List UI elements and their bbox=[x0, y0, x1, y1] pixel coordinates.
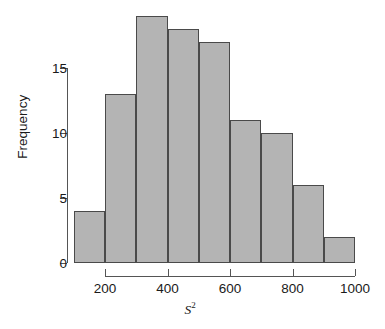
x-axis-tick bbox=[168, 269, 169, 276]
x-axis-tick-label: 600 bbox=[200, 282, 260, 296]
x-axis-tick bbox=[105, 269, 106, 276]
histogram-chart: 0 5 10 15 Frequency 200 400 600 800 1000… bbox=[0, 0, 385, 329]
y-axis-tick-label: 10 bbox=[27, 127, 67, 141]
x-axis-tick-label: 200 bbox=[75, 282, 135, 296]
x-axis-tick-label: 1000 bbox=[325, 282, 385, 296]
y-axis-title: Frequency bbox=[16, 62, 30, 192]
plot-area: 0 5 10 15 Frequency 200 400 600 800 1000… bbox=[0, 0, 385, 329]
histogram-bar bbox=[230, 120, 261, 263]
histogram-bar bbox=[261, 133, 292, 263]
x-axis-tick bbox=[293, 269, 294, 276]
x-axis-tick-label: 400 bbox=[138, 282, 198, 296]
histogram-bar bbox=[324, 237, 355, 263]
histogram-bar bbox=[199, 42, 230, 263]
y-axis-line bbox=[67, 68, 68, 263]
x-axis-tick-label: 800 bbox=[263, 282, 323, 296]
x-axis-tick bbox=[355, 269, 356, 276]
histogram-bar bbox=[136, 16, 167, 263]
y-axis-tick-label: 0 bbox=[27, 257, 67, 271]
histogram-bar bbox=[74, 211, 105, 263]
x-axis-title: S2 bbox=[155, 301, 225, 316]
x-axis-tick bbox=[230, 269, 231, 276]
x-axis-line bbox=[105, 276, 355, 277]
y-axis-tick-label: 5 bbox=[27, 192, 67, 206]
histogram-bar bbox=[293, 185, 324, 263]
histogram-bar bbox=[105, 94, 136, 263]
histogram-bar bbox=[168, 29, 199, 263]
x-axis-title-exponent: 2 bbox=[191, 300, 196, 310]
y-axis-tick-label: 15 bbox=[27, 62, 67, 76]
